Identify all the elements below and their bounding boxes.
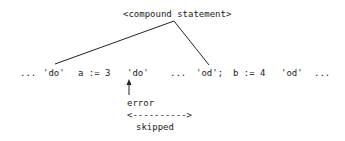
token-do-2: 'do': [127, 68, 149, 78]
token-od-1: 'od';: [196, 68, 223, 78]
token-od-2: 'od': [281, 68, 303, 78]
right-branch-line: [174, 21, 209, 65]
error-arrow-head-icon: [127, 79, 132, 85]
token-ellipsis-mid: ...: [170, 68, 186, 78]
root-node-label: <compound statement>: [123, 9, 231, 19]
token-do-1: 'do': [43, 68, 65, 78]
token-ellipsis-right: ...: [314, 68, 330, 78]
left-branch-line: [55, 21, 174, 64]
skip-range-marker: <---------->: [127, 110, 192, 120]
error-label: error: [127, 98, 154, 108]
token-assign-a: a := 3: [78, 68, 111, 78]
skipped-label: skipped: [136, 122, 174, 132]
token-ellipsis-left: ...: [20, 68, 36, 78]
token-assign-b: b := 4: [233, 68, 266, 78]
